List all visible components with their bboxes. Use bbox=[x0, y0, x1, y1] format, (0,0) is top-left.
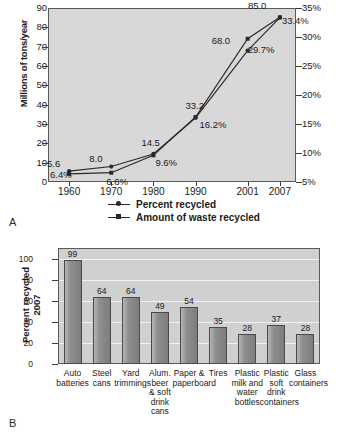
bar-chart-bar bbox=[151, 312, 169, 364]
bar-chart-bar bbox=[267, 325, 285, 364]
line-chart-right-tick-mark bbox=[296, 182, 302, 183]
line-chart-right-tick-label: 15% bbox=[302, 119, 342, 128]
bar-chart-value-label: 64 bbox=[116, 286, 146, 296]
line-chart-right-tick-label: 35% bbox=[302, 3, 342, 12]
bar-chart-bar bbox=[93, 297, 111, 364]
bar-chart-bar bbox=[64, 260, 82, 364]
bar-chart-y-tick-label: 100 bbox=[7, 255, 33, 263]
bar-chart-value-label: 28 bbox=[290, 323, 320, 333]
line-chart-percent-label: 9.6% bbox=[155, 157, 177, 168]
bar-chart-gridline bbox=[59, 259, 319, 261]
figure-b-bar-chart: Percent recycled 2007 020406080100 99646… bbox=[0, 232, 346, 437]
bar-chart-value-label: 37 bbox=[261, 314, 291, 324]
legend-label-amount-waste-recycled: Amount of waste recycled bbox=[136, 212, 260, 223]
bar-chart-bar bbox=[122, 297, 140, 364]
bar-chart-y-tick-label: 0 bbox=[7, 360, 33, 368]
bar-chart-y-tick-label: 20 bbox=[7, 339, 33, 347]
line-chart-x-tick-label: 1990 bbox=[173, 186, 219, 197]
line-chart-percent-label: 29.7% bbox=[248, 44, 275, 55]
bar-chart-bar bbox=[180, 307, 198, 364]
bar-chart-bar bbox=[238, 334, 256, 364]
percent-recycled-marker bbox=[109, 171, 113, 175]
bar-chart-value-label: 35 bbox=[203, 316, 233, 326]
bar-chart-y-tick-label: 60 bbox=[7, 297, 33, 305]
line-chart-amount-label: 33.2 bbox=[186, 100, 205, 111]
line-chart-amount-label: 68.0 bbox=[212, 35, 231, 46]
legend-item-amount-waste-recycled: Amount of waste recycled bbox=[108, 211, 260, 223]
percent-recycled-line bbox=[69, 17, 280, 174]
bar-chart-value-label: 54 bbox=[174, 296, 204, 306]
line-chart-right-tick-label: 10% bbox=[302, 148, 342, 157]
line-chart-right-tick-mark bbox=[296, 8, 302, 9]
figure-a-line-chart: Millions of tons/year 010203040506070809… bbox=[0, 0, 346, 232]
panel-letter-b: B bbox=[9, 417, 16, 429]
line-chart-amount-label: 8.0 bbox=[89, 153, 102, 164]
bar-chart-value-label: 99 bbox=[58, 249, 88, 259]
bar-chart-category-label: Glasscontainers bbox=[289, 369, 322, 388]
line-chart-percent-label: 6.4% bbox=[50, 169, 72, 180]
line-chart-percent-label: 16.2% bbox=[200, 119, 227, 130]
line-chart-right-tick-mark bbox=[296, 153, 302, 154]
bar-chart-gridline bbox=[59, 280, 319, 282]
line-chart-legend: Percent recycled Amount of waste recycle… bbox=[108, 198, 260, 224]
line-chart-series-svg bbox=[48, 8, 296, 182]
line-chart-x-tick-label: 1980 bbox=[130, 186, 176, 197]
line-chart-right-tick-label: 5% bbox=[302, 177, 342, 186]
line-chart-left-tick-label: 0 bbox=[23, 177, 47, 186]
line-chart-right-tick-label: 30% bbox=[302, 32, 342, 41]
bar-chart-y-tick-label: 80 bbox=[7, 276, 33, 284]
line-chart-amount-label: 85.0 bbox=[248, 0, 267, 11]
amount-waste-recycled-marker bbox=[109, 164, 113, 168]
line-chart-percent-label: 6.6% bbox=[106, 176, 128, 187]
bar-chart-value-label: 28 bbox=[232, 323, 262, 333]
line-chart-right-tick-mark bbox=[296, 66, 302, 67]
bar-chart-value-label: 49 bbox=[145, 301, 175, 311]
line-chart-x-tick-label: 1960 bbox=[46, 186, 92, 197]
bar-chart-bar bbox=[296, 334, 314, 364]
square-dot-marker-icon bbox=[108, 212, 130, 222]
legend-item-percent-recycled: Percent recycled bbox=[108, 198, 260, 210]
line-chart-right-tick-mark bbox=[296, 95, 302, 96]
round-dot-marker-icon bbox=[108, 199, 130, 209]
line-chart-percent-label: 33.4% bbox=[282, 15, 309, 26]
line-chart-left-tick-label: 90 bbox=[23, 3, 47, 12]
line-chart-right-tick-mark bbox=[296, 124, 302, 125]
line-chart-x-tick-label: 2007 bbox=[257, 186, 303, 197]
bar-chart-y-tick-label: 40 bbox=[7, 318, 33, 326]
line-chart-right-tick-mark bbox=[296, 37, 302, 38]
line-chart-amount-label: 5.6 bbox=[47, 158, 60, 169]
percent-recycled-marker bbox=[246, 37, 250, 41]
line-chart-amount-label: 14.5 bbox=[141, 137, 160, 148]
legend-label-percent-recycled: Percent recycled bbox=[136, 199, 216, 210]
line-chart-right-tick-label: 25% bbox=[302, 61, 342, 70]
line-chart-x-tick-label: 1970 bbox=[88, 186, 134, 197]
bar-chart-y-tick-mark bbox=[52, 364, 58, 365]
panel-letter-a: A bbox=[9, 216, 16, 228]
percent-recycled-marker bbox=[194, 115, 198, 119]
bar-chart-value-label: 64 bbox=[87, 286, 117, 296]
bar-chart-bar bbox=[209, 327, 227, 364]
line-chart-right-tick-label: 20% bbox=[302, 90, 342, 99]
